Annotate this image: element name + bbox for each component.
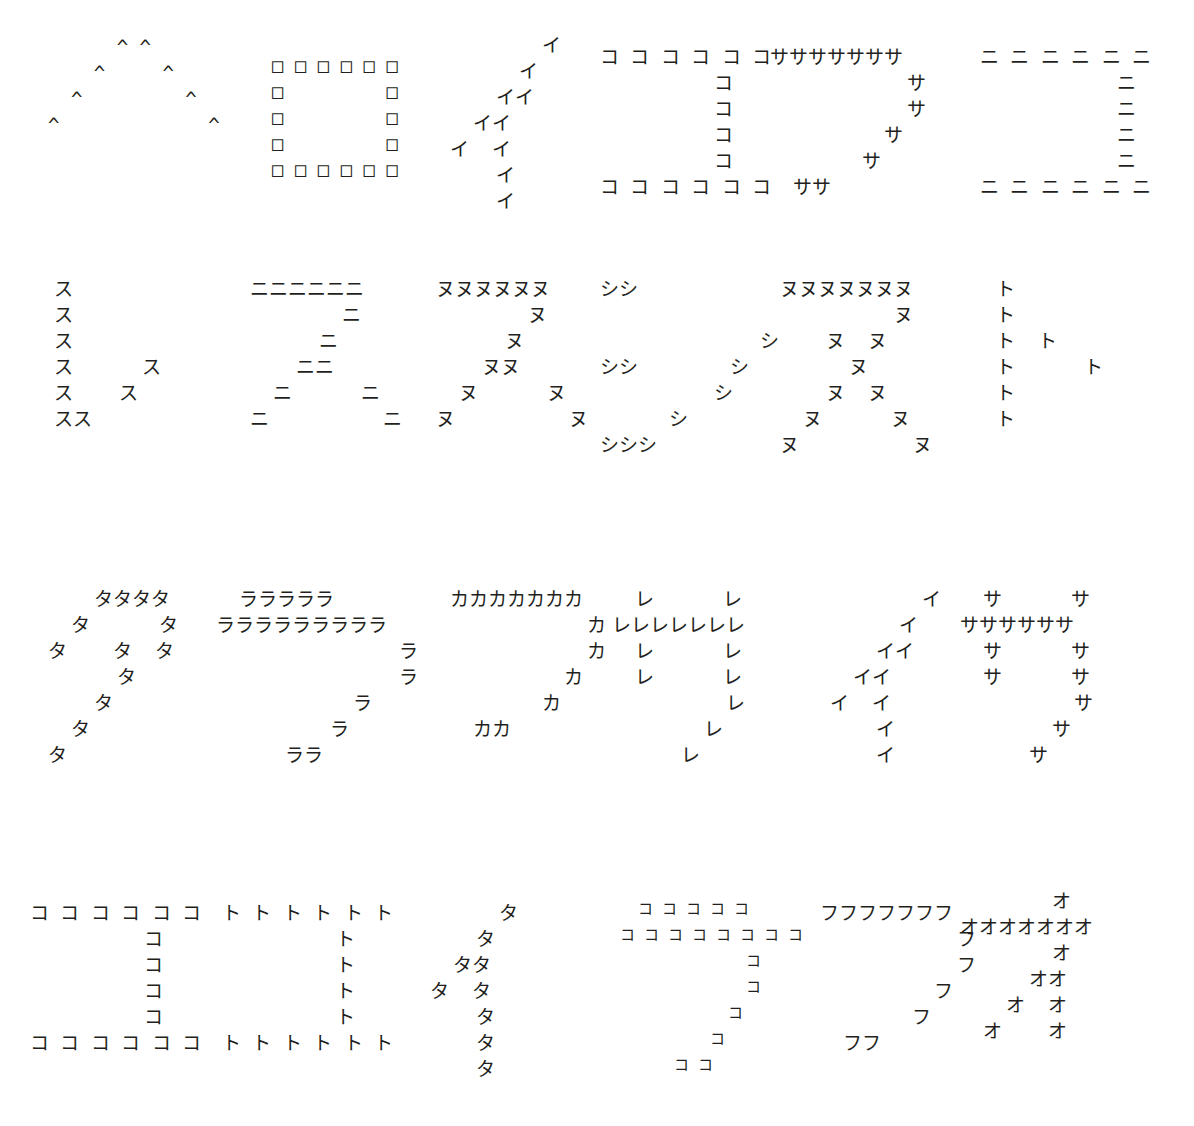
figure-nu-stroke-of-ヌ: ヌヌヌヌヌヌ ヌ ヌ ヌヌ ヌ ヌ ヌ ヌ [436,276,588,432]
figure-nu-stroke-of-ヌ: ヌヌヌヌヌヌヌ ヌ ヌ ヌ ヌ ヌ ヌ ヌ ヌ ヌ ヌ [780,276,932,458]
mosaic-art: ラララララ ラララララララララ ラ ラ ラ ラ ララ [216,586,418,768]
mosaic-art: イ イ イイ イイ イ イ イ イ [830,586,941,768]
mosaic-art: ス ス ス ス ス ス ス スス [54,276,161,432]
figure-seven-stroke-of-カ: カカカカカカカ カ カ カ カ カカ [450,586,606,742]
mosaic-art: タタタタ タ タ タ タ タ タ タ タ タ [48,586,178,768]
figure-check-mark-of-ス: ス ス ス ス ス ス ス スス [54,276,161,432]
figure-seven-stroke-of-サ: サササササササ サ サ サ サ ササ [770,44,926,200]
mosaic-art: □ □ □ □ □ □ □ □ □ □ □ □ □ □ □ □ □ □ [272,52,398,182]
figure-sa-stroke-of-サ: サ サ ササササササ サ サ サ サ サ サ サ [960,586,1093,768]
mosaic-art: ト ト ト ト ト ト ト ト [996,276,1103,432]
mosaic-art: ヌヌヌヌヌヌヌ ヌ ヌ ヌ ヌ ヌ ヌ ヌ ヌ ヌ ヌ [780,276,932,458]
mosaic-art: ニ ニ ニ ニ ニ ニ ニ ニ ニ ニ ニ ニ ニ ニ ニ ニ [980,44,1151,200]
mosaic-art: イ イ イイ イイ イ イ イ イ [450,32,561,214]
mosaic-art: レ レ レレレレレレレ レ レ レ レ レ レ レ [612,586,745,768]
figure-to-stroke-of-ト: ト ト ト ト ト ト ト ト [996,276,1103,432]
figure-square-bracket-box-of-コ: コ コ コ コ コ コ コ コ コ コ コ コ コ コ コ コ [30,900,201,1056]
mosaic-art: タ タ タタ タ タ タ タ タ [430,900,518,1082]
mosaic-art: オ オオオオオオオ オ オオ オ オ オ オ [960,888,1093,1044]
figure-square-bracket-box-of-コ: コ コ コ コ コ コ コ コ コ コ コ コ コ コ コ コ [600,44,771,200]
mosaic-art: サササササササ サ サ サ サ ササ [770,44,926,200]
mosaic-art: ヌヌヌヌヌヌ ヌ ヌ ヌヌ ヌ ヌ ヌ ヌ [436,276,588,432]
mosaic-art: サ サ ササササササ サ サ サ サ サ サ サ [960,586,1093,768]
figure-seven-stroke-of-フ: フフフフフフフ フ フ フ フ フフ [820,900,976,1056]
figure-square-bracket-box-of-ト: ト ト ト ト ト ト ト ト ト ト ト ト ト ト ト ト [222,900,393,1056]
figure-square-bracket-box-of-ニ: ニ ニ ニ ニ ニ ニ ニ ニ ニ ニ ニ ニ ニ ニ ニ ニ [980,44,1151,200]
figure-ta-stroke-of-タ: タ タ タタ タ タ タ タ タ [430,900,518,1082]
mosaic-art: ト ト ト ト ト ト ト ト ト ト ト ト ト ト ト ト [222,900,393,1056]
mosaic-sheet: ^ ^ ^ ^ ^ ^ ^ ^□ □ □ □ □ □ □ □ □ □ □ □ □… [0,0,1194,1126]
figure-ra-stroke-of-コ: コ コ コ コ コ コ コ コ コ コ コ コ コ コ コ コ コ コ コ [620,896,803,1078]
figure-arrow-fork-of-ニ: ニニニニニニ ニ ニ ニニ ニ ニ ニ ニ [250,276,402,432]
figure-seven-stroke-of-イ: イ イ イイ イイ イ イ イ イ [830,586,941,768]
mosaic-art: カカカカカカカ カ カ カ カ カカ [450,586,606,742]
figure-ta-stroke-of-タ: タタタタ タ タ タ タ タ タ タ タ タ [48,586,178,768]
figure-ra-stroke-of-ラ: ラララララ ラララララララララ ラ ラ ラ ラ ララ [216,586,418,768]
figure-o-stroke-of-オ: オ オオオオオオオ オ オオ オ オ オ オ [960,888,1093,1044]
figure-square-outline-of-□: □ □ □ □ □ □ □ □ □ □ □ □ □ □ □ □ □ □ [272,52,398,182]
mosaic-art: ^ ^ ^ ^ ^ ^ ^ ^ [48,34,220,138]
mosaic-art: コ コ コ コ コ コ コ コ コ コ コ コ コ コ コ コ コ コ コ [620,896,803,1078]
figure-sa-stroke-of-レ: レ レ レレレレレレレ レ レ レ レ レ レ レ [612,586,745,768]
figure-caret-peak-of-^: ^ ^ ^ ^ ^ ^ ^ ^ [48,34,220,138]
mosaic-art: フフフフフフフ フ フ フ フ フフ [820,900,976,1056]
figure-shi-stroke-of-シ: シシ シ シシ シ シ シ シシシ [600,276,779,458]
mosaic-art: シシ シ シシ シ シ シ シシシ [600,276,779,458]
mosaic-art: コ コ コ コ コ コ コ コ コ コ コ コ コ コ コ コ [30,900,201,1056]
mosaic-art: コ コ コ コ コ コ コ コ コ コ コ コ コ コ コ コ [600,44,771,200]
mosaic-art: ニニニニニニ ニ ニ ニニ ニ ニ ニ ニ [250,276,402,432]
figure-seven-stroke-of-イ: イ イ イイ イイ イ イ イ イ [450,32,561,214]
